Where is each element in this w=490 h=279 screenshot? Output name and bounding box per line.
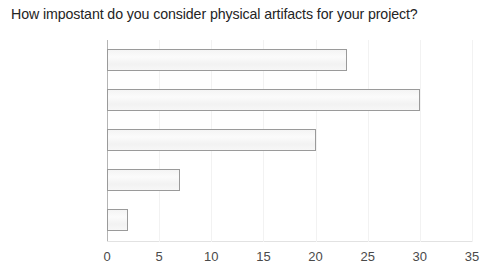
x-axis-tick-label: 0 — [87, 249, 127, 264]
bar — [107, 169, 180, 191]
x-axis-tick-label: 15 — [243, 249, 283, 264]
bar — [107, 209, 128, 231]
bar-chart-figure: How impostant do you consider physical a… — [0, 0, 490, 279]
bar — [107, 129, 316, 151]
x-axis-tick-label: 5 — [139, 249, 179, 264]
x-axis-tick-label: 30 — [400, 249, 440, 264]
x-axis-tick-label: 10 — [191, 249, 231, 264]
gridline — [472, 40, 473, 242]
x-axis-tick-label: 20 — [296, 249, 336, 264]
chart-title: How impostant do you consider physical a… — [11, 6, 481, 22]
x-axis-tick-label: 25 — [348, 249, 388, 264]
gridline — [420, 40, 421, 242]
bar — [107, 49, 347, 71]
gridline — [368, 40, 369, 242]
plot-area — [107, 40, 472, 242]
x-axis-line — [107, 241, 472, 242]
bar — [107, 89, 420, 111]
x-axis-tick-label: 35 — [452, 249, 490, 264]
